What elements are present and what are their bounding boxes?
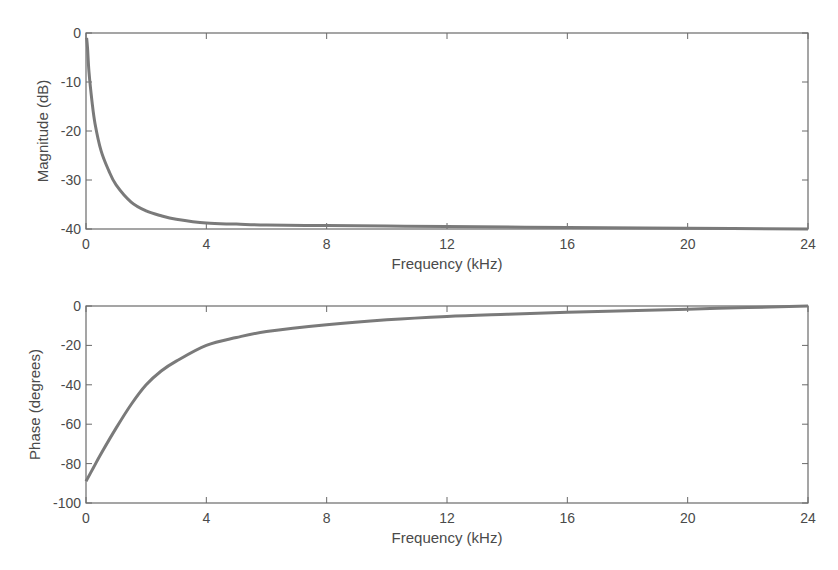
x-tick-label: 0	[82, 510, 90, 526]
x-tick-label: 8	[323, 236, 331, 252]
y-axis-label: Magnitude (dB)	[34, 80, 51, 183]
y-tick-label: -10	[61, 74, 81, 90]
x-tick-label: 4	[202, 510, 210, 526]
x-tick-label: 20	[680, 510, 696, 526]
y-tick-label: -80	[61, 456, 81, 472]
axes-frame	[86, 306, 808, 503]
phase-curve	[86, 306, 808, 481]
phase-plot: 048121620240-20-40-60-80-100Frequency (k…	[26, 298, 816, 546]
x-axis-label: Frequency (kHz)	[392, 529, 503, 546]
y-tick-label: 0	[73, 25, 81, 41]
y-tick-label: 0	[73, 298, 81, 314]
x-tick-label: 24	[800, 510, 816, 526]
y-tick-label: -40	[61, 377, 81, 393]
x-tick-label: 20	[680, 236, 696, 252]
magnitude-plot: 048121620240-10-20-30-40Frequency (kHz)M…	[34, 25, 816, 272]
y-tick-label: -30	[61, 172, 81, 188]
y-tick-label: -20	[61, 337, 81, 353]
y-tick-label: -100	[53, 495, 81, 511]
x-axis-label: Frequency (kHz)	[392, 255, 503, 272]
x-tick-label: 16	[560, 236, 576, 252]
y-tick-label: -40	[61, 221, 81, 237]
x-tick-label: 16	[560, 510, 576, 526]
x-tick-label: 0	[82, 236, 90, 252]
y-tick-label: -20	[61, 123, 81, 139]
x-tick-label: 24	[800, 236, 816, 252]
x-tick-label: 8	[323, 510, 331, 526]
x-tick-label: 4	[202, 236, 210, 252]
y-tick-label: -60	[61, 416, 81, 432]
figure: 048121620240-10-20-30-40Frequency (kHz)M…	[0, 0, 838, 570]
x-tick-label: 12	[439, 510, 455, 526]
y-axis-label: Phase (degrees)	[26, 349, 43, 460]
axes-frame	[86, 33, 808, 229]
x-tick-label: 12	[439, 236, 455, 252]
magnitude-curve	[87, 38, 808, 229]
